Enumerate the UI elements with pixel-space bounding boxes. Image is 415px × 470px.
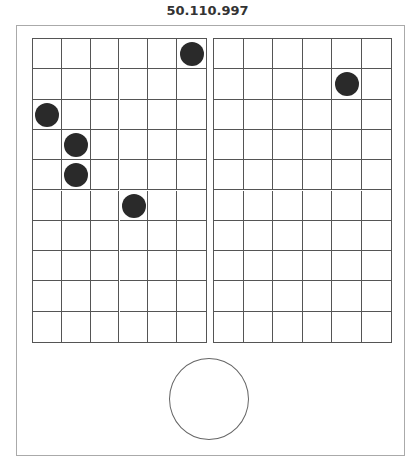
game-piece-dot[interactable] bbox=[122, 194, 146, 218]
grid-cell[interactable] bbox=[244, 100, 274, 130]
grid-cell[interactable] bbox=[362, 251, 392, 281]
grid-cell[interactable] bbox=[148, 281, 177, 311]
grid-cell[interactable] bbox=[273, 221, 303, 251]
grid-cell[interactable] bbox=[91, 281, 120, 311]
grid-cell[interactable] bbox=[362, 221, 392, 251]
grid-cell[interactable] bbox=[332, 221, 362, 251]
grid-cell[interactable] bbox=[332, 100, 362, 130]
grid-cell[interactable] bbox=[91, 100, 120, 130]
grid-cell[interactable] bbox=[148, 130, 177, 160]
grid-cell[interactable] bbox=[62, 221, 91, 251]
left-board[interactable] bbox=[32, 38, 207, 343]
grid-cell[interactable] bbox=[303, 100, 333, 130]
grid-cell[interactable] bbox=[332, 160, 362, 190]
grid-cell[interactable] bbox=[120, 39, 149, 69]
grid-cell[interactable] bbox=[91, 160, 120, 190]
grid-cell[interactable] bbox=[33, 251, 62, 281]
grid-cell[interactable] bbox=[303, 130, 333, 160]
grid-cell[interactable] bbox=[273, 191, 303, 221]
grid-cell[interactable] bbox=[362, 191, 392, 221]
grid-cell[interactable] bbox=[214, 312, 244, 342]
grid-cell[interactable] bbox=[303, 312, 333, 342]
grid-cell[interactable] bbox=[120, 281, 149, 311]
grid-cell[interactable] bbox=[33, 312, 62, 342]
grid-cell[interactable] bbox=[362, 100, 392, 130]
grid-cell[interactable] bbox=[91, 221, 120, 251]
grid-cell[interactable] bbox=[362, 281, 392, 311]
grid-cell[interactable] bbox=[303, 160, 333, 190]
grid-cell[interactable] bbox=[91, 251, 120, 281]
grid-cell[interactable] bbox=[362, 130, 392, 160]
grid-cell[interactable] bbox=[244, 312, 274, 342]
grid-cell[interactable] bbox=[244, 69, 274, 99]
grid-cell[interactable] bbox=[214, 100, 244, 130]
grid-cell[interactable] bbox=[177, 130, 206, 160]
grid-cell[interactable] bbox=[273, 281, 303, 311]
grid-cell[interactable] bbox=[120, 251, 149, 281]
grid-cell[interactable] bbox=[33, 281, 62, 311]
grid-cell[interactable] bbox=[362, 312, 392, 342]
grid-cell[interactable] bbox=[244, 221, 274, 251]
grid-cell[interactable] bbox=[148, 251, 177, 281]
grid-cell[interactable] bbox=[362, 39, 392, 69]
grid-cell[interactable] bbox=[177, 251, 206, 281]
grid-cell[interactable] bbox=[62, 251, 91, 281]
grid-cell[interactable] bbox=[244, 160, 274, 190]
grid-cell[interactable] bbox=[177, 160, 206, 190]
grid-cell[interactable] bbox=[91, 130, 120, 160]
grid-cell[interactable] bbox=[62, 69, 91, 99]
grid-cell[interactable] bbox=[33, 39, 62, 69]
grid-cell[interactable] bbox=[148, 312, 177, 342]
grid-cell[interactable] bbox=[303, 39, 333, 69]
grid-cell[interactable] bbox=[214, 191, 244, 221]
grid-cell[interactable] bbox=[332, 39, 362, 69]
grid-cell[interactable] bbox=[148, 160, 177, 190]
grid-cell[interactable] bbox=[91, 39, 120, 69]
grid-cell[interactable] bbox=[33, 191, 62, 221]
grid-cell[interactable] bbox=[177, 312, 206, 342]
grid-cell[interactable] bbox=[273, 100, 303, 130]
grid-cell[interactable] bbox=[120, 312, 149, 342]
grid-cell[interactable] bbox=[120, 69, 149, 99]
grid-cell[interactable] bbox=[273, 251, 303, 281]
grid-cell[interactable] bbox=[62, 191, 91, 221]
grid-cell[interactable] bbox=[273, 69, 303, 99]
grid-cell[interactable] bbox=[148, 100, 177, 130]
grid-cell[interactable] bbox=[91, 191, 120, 221]
grid-cell[interactable] bbox=[273, 160, 303, 190]
game-piece-dot[interactable] bbox=[335, 72, 359, 96]
grid-cell[interactable] bbox=[62, 312, 91, 342]
game-piece-dot[interactable] bbox=[64, 163, 88, 187]
grid-cell[interactable] bbox=[273, 39, 303, 69]
grid-cell[interactable] bbox=[177, 281, 206, 311]
grid-cell[interactable] bbox=[177, 191, 206, 221]
grid-cell[interactable] bbox=[332, 191, 362, 221]
grid-cell[interactable] bbox=[120, 160, 149, 190]
grid-cell[interactable] bbox=[62, 39, 91, 69]
grid-cell[interactable] bbox=[214, 251, 244, 281]
grid-cell[interactable] bbox=[214, 69, 244, 99]
grid-cell[interactable] bbox=[120, 100, 149, 130]
grid-cell[interactable] bbox=[33, 221, 62, 251]
grid-cell[interactable] bbox=[303, 251, 333, 281]
grid-cell[interactable] bbox=[332, 281, 362, 311]
grid-cell[interactable] bbox=[303, 69, 333, 99]
grid-cell[interactable] bbox=[148, 39, 177, 69]
grid-cell[interactable] bbox=[244, 39, 274, 69]
grid-cell[interactable] bbox=[120, 130, 149, 160]
grid-cell[interactable] bbox=[33, 130, 62, 160]
grid-cell[interactable] bbox=[62, 100, 91, 130]
grid-cell[interactable] bbox=[148, 69, 177, 99]
grid-cell[interactable] bbox=[303, 191, 333, 221]
game-piece-dot[interactable] bbox=[35, 103, 59, 127]
grid-cell[interactable] bbox=[33, 160, 62, 190]
grid-cell[interactable] bbox=[332, 312, 362, 342]
grid-cell[interactable] bbox=[273, 130, 303, 160]
grid-cell[interactable] bbox=[332, 251, 362, 281]
grid-cell[interactable] bbox=[62, 281, 91, 311]
grid-cell[interactable] bbox=[91, 69, 120, 99]
game-piece-dot[interactable] bbox=[180, 42, 204, 66]
grid-cell[interactable] bbox=[303, 221, 333, 251]
grid-cell[interactable] bbox=[214, 160, 244, 190]
grid-cell[interactable] bbox=[120, 221, 149, 251]
